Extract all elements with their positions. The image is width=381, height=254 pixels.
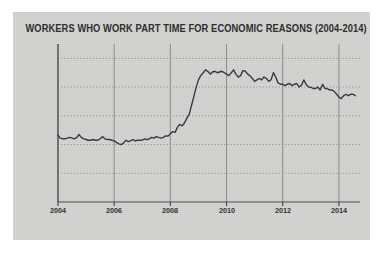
- chart-title: WORKERS WHO WORK PART TIME FOR ECONOMIC …: [25, 23, 357, 34]
- x-tick-label: 2014: [331, 206, 347, 215]
- x-tick-label: 2004: [50, 206, 66, 215]
- axis-lines: [58, 44, 360, 202]
- chart-card: WORKERS WHO WORK PART TIME FOR ECONOMIC …: [13, 12, 370, 240]
- screenshot-root: WORKERS WHO WORK PART TIME FOR ECONOMIC …: [0, 0, 381, 254]
- x-tick-label: 2006: [106, 206, 122, 215]
- x-tick-label: 2008: [162, 206, 178, 215]
- horizontal-gridlines: [58, 58, 360, 173]
- chart-plot-svg: [58, 44, 360, 202]
- x-tick-label: 2012: [275, 206, 291, 215]
- plot-area: [58, 44, 360, 202]
- data-series-line: [58, 70, 355, 145]
- vertical-gridlines: [58, 44, 339, 202]
- x-axis-tick-labels: 200420062008201020122014: [58, 206, 360, 220]
- x-tick-label: 2010: [219, 206, 235, 215]
